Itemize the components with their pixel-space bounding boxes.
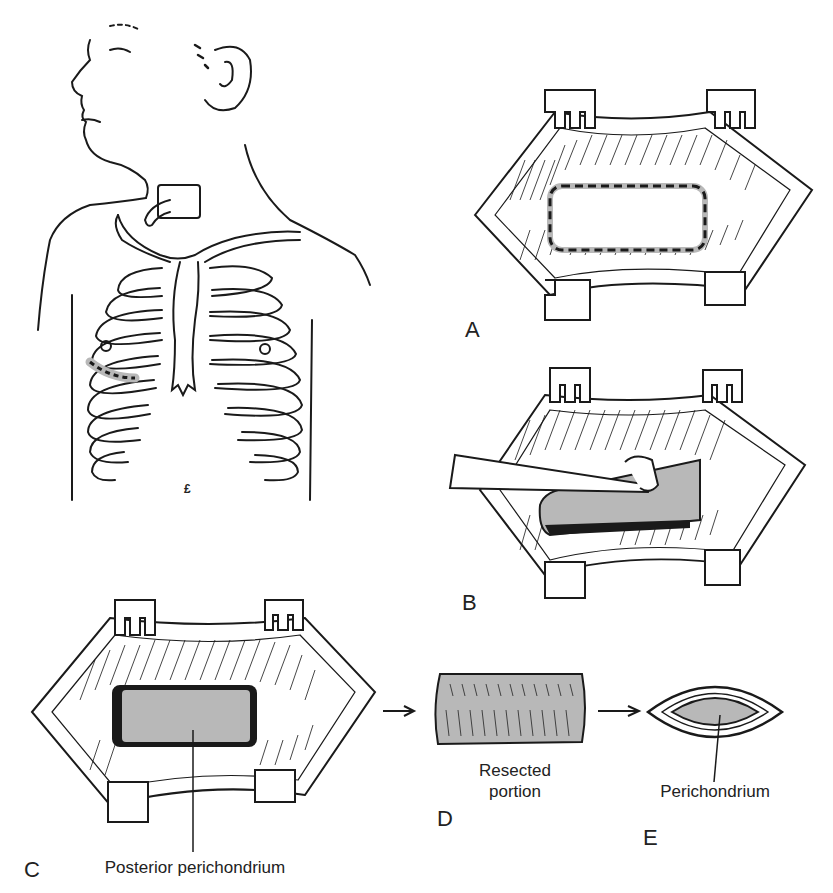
panel-d: Resected portion D [430,670,600,850]
posterior-perichondrium [122,690,250,742]
torso-marker: £ [184,482,191,496]
posterior-perichondrium-caption: Posterior perichondrium [85,857,305,878]
panel-a-drawing [420,50,833,350]
resected-caption-line1: Resected [465,760,565,781]
panel-e: Perichondrium E [640,670,833,870]
panel-b: B [420,340,833,620]
panel-c-label: C [24,857,40,883]
panel-b-label: B [462,590,477,616]
panel-a: A [420,50,833,350]
panel-e-drawing [640,670,833,870]
arrow-c-to-d [383,706,414,716]
panel-e-label: E [643,825,658,851]
perichondrium-caption: Perichondrium [640,781,790,802]
resected-caption-line2: portion [465,781,565,802]
panel-d-label: D [437,806,453,832]
resection-outline-shade [550,186,705,250]
panel-b-drawing [420,340,833,620]
panel-c: C Posterior perichondrium [0,590,420,893]
elevator-instrument [450,455,650,492]
torso-drawing [0,0,420,500]
panel-c-drawing [0,590,420,893]
torso-illustration: £ [0,0,420,500]
